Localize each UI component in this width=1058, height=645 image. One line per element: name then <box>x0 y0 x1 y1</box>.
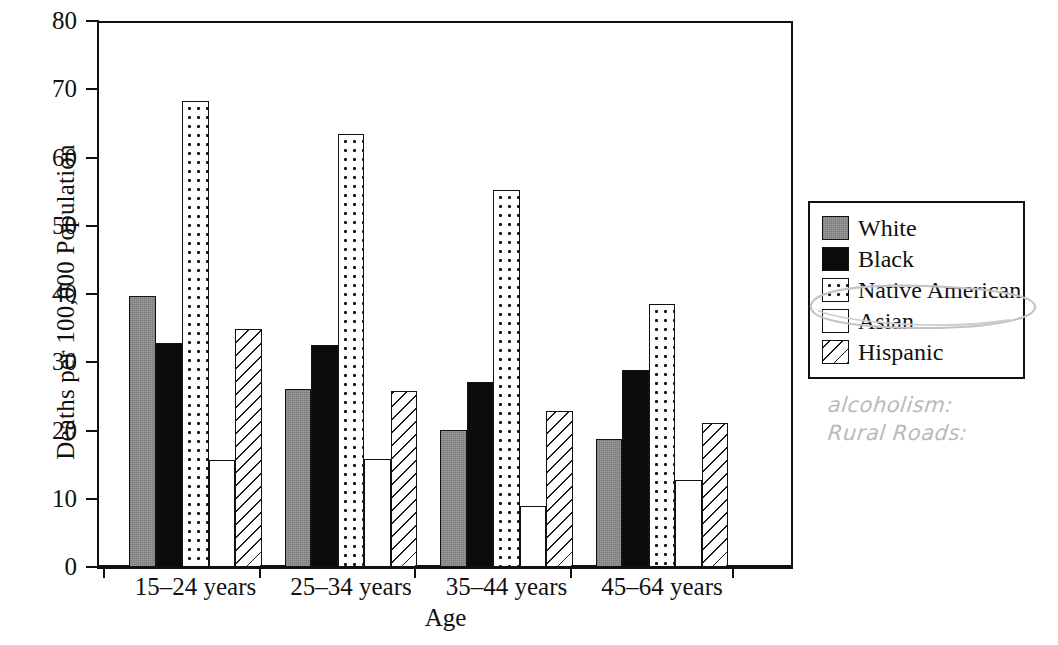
y-tick-label: 10 <box>21 486 77 511</box>
legend-swatch-icon <box>822 278 849 302</box>
y-tick-label: 60 <box>21 145 77 170</box>
y-tick-label: 30 <box>21 349 77 374</box>
bar-asian-group-3 <box>520 506 547 567</box>
bar-black-group-2 <box>311 345 338 567</box>
bar-hispanic-group-2 <box>391 391 418 567</box>
bar-native-american-group-4 <box>649 304 676 567</box>
legend-item-asian: Asian <box>822 305 1013 336</box>
y-tick-mark <box>86 361 99 363</box>
y-tick-mark <box>86 20 99 22</box>
y-tick-mark <box>86 498 99 500</box>
pencil-note-line-1: alcoholism: <box>827 392 1045 420</box>
x-tick-label-group-4: 45–64 years <box>572 573 752 601</box>
bar-hispanic-group-1 <box>235 329 262 567</box>
bar-white-group-2 <box>285 389 312 567</box>
legend-swatch-icon <box>822 340 849 364</box>
x-tick-label-group-2: 25–34 years <box>261 573 441 601</box>
y-tick-mark <box>86 157 99 159</box>
y-tick-mark <box>86 430 99 432</box>
bar-asian-group-2 <box>364 459 391 567</box>
bar-white-group-1 <box>129 296 156 567</box>
bar-black-group-4 <box>622 370 649 567</box>
y-tick-label: 40 <box>21 281 77 306</box>
x-tick-label-group-3: 35–44 years <box>417 573 597 601</box>
legend-item-native-american: Native American <box>822 274 1013 305</box>
legend-item-white: White <box>822 212 1013 243</box>
plot-frame-right <box>791 21 793 569</box>
bar-native-american-group-3 <box>493 190 520 567</box>
y-tick-label: 80 <box>21 8 77 33</box>
legend-swatch-icon <box>822 309 849 333</box>
bar-native-american-group-2 <box>338 134 365 567</box>
bar-asian-group-1 <box>209 460 236 567</box>
pencil-handwriting-annotation: alcoholism: Rural Roads: <box>828 392 1043 447</box>
y-tick-mark <box>86 566 99 568</box>
legend-item-label: Asian <box>858 309 914 333</box>
y-tick-label: 70 <box>21 76 77 101</box>
y-tick-label: 0 <box>21 554 77 579</box>
pencil-note-line-2: Rural Roads: <box>827 420 1045 448</box>
plot-frame-left <box>97 21 99 569</box>
y-tick-mark <box>86 225 99 227</box>
legend-item-black: Black <box>822 243 1013 274</box>
chart-legend: WhiteBlackNative AmericanAsianHispanic <box>808 201 1025 379</box>
bar-black-group-1 <box>156 343 183 567</box>
bar-hispanic-group-4 <box>702 423 729 567</box>
x-axis-title: Age <box>98 604 793 632</box>
y-tick-mark <box>86 293 99 295</box>
legend-item-label: Native American <box>858 278 1021 302</box>
bar-white-group-4 <box>596 439 623 567</box>
bar-native-american-group-1 <box>182 101 209 567</box>
bar-hispanic-group-3 <box>546 411 573 567</box>
bar-chart-figure: Deaths per 100,000 Population Age 010203… <box>0 0 1058 645</box>
legend-swatch-icon <box>822 216 849 240</box>
x-tick-label-group-1: 15–24 years <box>106 573 286 601</box>
legend-swatch-icon <box>822 247 849 271</box>
bar-asian-group-4 <box>675 480 702 567</box>
y-tick-label: 50 <box>21 213 77 238</box>
y-tick-label: 20 <box>21 418 77 443</box>
bar-white-group-3 <box>440 430 467 567</box>
legend-item-hispanic: Hispanic <box>822 336 1013 367</box>
legend-item-label: Black <box>858 247 914 271</box>
y-tick-mark <box>86 88 99 90</box>
plot-frame-top <box>97 21 793 23</box>
legend-item-label: White <box>858 216 917 240</box>
legend-item-label: Hispanic <box>858 340 943 364</box>
bar-black-group-3 <box>467 382 494 567</box>
